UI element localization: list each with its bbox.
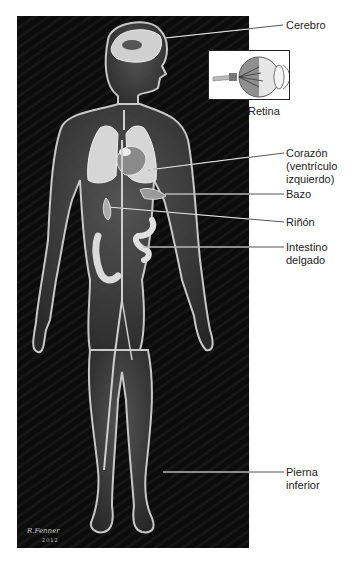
eye-cross-section-icon bbox=[209, 51, 290, 100]
retina-label: Retina bbox=[248, 105, 280, 118]
label-rinon: Riñón bbox=[286, 216, 315, 229]
artist-signature: R.Fenner bbox=[27, 527, 60, 535]
artist-signature-year: 2012 bbox=[42, 537, 59, 543]
label-corazon: Corazón (ventrículo izquierdo) bbox=[286, 147, 337, 186]
label-intestino: Intestino delgado bbox=[286, 241, 328, 267]
label-cerebro: Cerebro bbox=[286, 19, 326, 32]
label-bazo: Bazo bbox=[286, 188, 311, 201]
label-pierna: Pierna inferior bbox=[286, 466, 320, 492]
eye-inset bbox=[208, 50, 290, 100]
